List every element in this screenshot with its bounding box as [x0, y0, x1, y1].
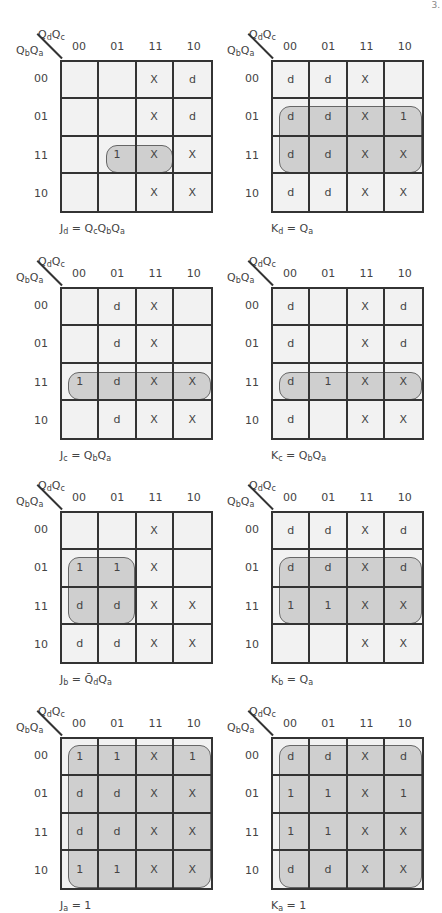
kmap-cell: d: [310, 137, 347, 174]
row-label: 01: [26, 561, 56, 574]
kmap-cell: X: [137, 739, 174, 776]
row-label: 10: [237, 864, 267, 877]
corner-header: QdQc QbQa: [0, 0, 60, 60]
kmap-cell: X: [137, 513, 174, 550]
kmap-cell: X: [348, 588, 385, 625]
corner-header: QdQc QbQa: [211, 227, 271, 287]
kmap-cell: X: [137, 62, 174, 99]
row-label: 01: [26, 110, 56, 123]
column-label: 11: [348, 267, 386, 280]
kmap-cell: d: [310, 550, 347, 587]
column-label: 00: [60, 40, 98, 53]
kmap-cell: X: [348, 814, 385, 851]
kmap-cell: X: [174, 625, 211, 662]
column-label: 11: [348, 40, 386, 53]
column-label: 10: [386, 717, 424, 730]
kmap-cell: [62, 513, 99, 550]
column-label: 10: [386, 267, 424, 280]
kmap-cell: d: [273, 364, 310, 401]
column-label: 01: [309, 491, 347, 504]
column-label: 10: [175, 491, 213, 504]
kmap-cell: d: [310, 513, 347, 550]
kmap-cell: d: [273, 174, 310, 211]
corner-header: QdQc QbQa: [211, 0, 271, 60]
corner-header: QdQc QbQa: [211, 451, 271, 511]
row-label: 11: [237, 600, 267, 613]
column-label: 11: [137, 267, 175, 280]
row-label: 01: [26, 337, 56, 350]
kmap-cell: X: [385, 588, 422, 625]
kmap-kc: QdQc QbQa 0001111000011110dXddXdd1XXdXXK…: [211, 227, 432, 452]
kmap-grid: 11X1ddXXddXX11XX: [60, 737, 213, 890]
kmap-cell: d: [273, 851, 310, 888]
kmap-cell: X: [348, 851, 385, 888]
row-label: 00: [237, 299, 267, 312]
kmap-cell: [62, 289, 99, 326]
column-label: 00: [271, 267, 309, 280]
kmap-cell: 1: [273, 814, 310, 851]
corner-header: QdQc QbQa: [0, 451, 60, 511]
kmap-cell: [62, 401, 99, 438]
kmap-grid: ddXd11X111XXddXX: [271, 737, 424, 890]
kmap-cell: d: [99, 625, 136, 662]
row-label: 00: [237, 749, 267, 762]
kmap-cell: [62, 326, 99, 363]
kmap-cell: [174, 550, 211, 587]
column-label: 10: [386, 40, 424, 53]
kmap-cell: X: [174, 174, 211, 211]
kmap-cell: d: [99, 588, 136, 625]
kmap-cell: [273, 625, 310, 662]
kmap-cell: d: [385, 550, 422, 587]
kmap-cell: d: [310, 62, 347, 99]
row-label: 10: [26, 414, 56, 427]
kmap-cell: X: [137, 174, 174, 211]
kmap-cell: 1: [62, 851, 99, 888]
column-label: 00: [60, 491, 98, 504]
kmap-cell: X: [137, 326, 174, 363]
kmap-cell: d: [174, 99, 211, 136]
kmap-ja: QdQc QbQa 000111100001111011X1ddXXddXX11…: [0, 677, 221, 902]
kmap-cell: [310, 625, 347, 662]
column-label: 11: [137, 40, 175, 53]
kmap-cell: d: [273, 550, 310, 587]
kmap-cell: d: [273, 739, 310, 776]
kmap-cell: X: [348, 776, 385, 813]
kmap-cell: 1: [174, 739, 211, 776]
kmap-cell: [62, 99, 99, 136]
kmap-cell: X: [137, 588, 174, 625]
kmap-cell: X: [137, 289, 174, 326]
kmap-cell: d: [310, 99, 347, 136]
column-label: 00: [60, 717, 98, 730]
kmap-grid: dXddXdd1XXdXX: [271, 287, 424, 440]
kmap-cell: d: [273, 289, 310, 326]
kmap-cell: d: [273, 62, 310, 99]
kmap-cell: 1: [310, 588, 347, 625]
kmap-jd: QdQc QbQa 0001111000011110XdXd1XXXXJd = …: [0, 0, 221, 225]
row-label: 00: [26, 523, 56, 536]
column-label: 01: [309, 267, 347, 280]
row-variables: QbQa: [16, 44, 43, 58]
kmap-cell: d: [385, 326, 422, 363]
column-label: 00: [271, 717, 309, 730]
kmap-cell: X: [348, 364, 385, 401]
kmap-grid: ddXddX1ddXXddXX: [271, 60, 424, 213]
kmap-cell: d: [99, 289, 136, 326]
kmap-cell: X: [348, 513, 385, 550]
kmap-cell: d: [273, 513, 310, 550]
kmap-cell: [174, 289, 211, 326]
kmap-cell: X: [137, 137, 174, 174]
kmap-cell: 1: [310, 364, 347, 401]
kmap-cell: d: [174, 62, 211, 99]
row-label: 11: [237, 826, 267, 839]
kmap-grid: dXdX1dXXdXX: [60, 287, 213, 440]
kmap-cell: X: [174, 814, 211, 851]
kmap-cell: d: [273, 137, 310, 174]
row-label: 00: [26, 749, 56, 762]
kmap-cell: X: [174, 137, 211, 174]
kmap-cell: 1: [99, 851, 136, 888]
corner-header: QdQc QbQa: [0, 677, 60, 737]
row-label: 10: [26, 638, 56, 651]
kmap-cell: 1: [99, 550, 136, 587]
kmap-cell: [99, 99, 136, 136]
row-label: 10: [237, 638, 267, 651]
